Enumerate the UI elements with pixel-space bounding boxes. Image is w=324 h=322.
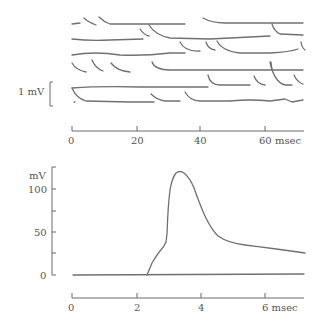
trace-row-2: [72, 24, 303, 40]
top-x-tick-60: 60 msec: [259, 135, 301, 146]
top-x-axis: 0 20 40 60 msec: [68, 126, 304, 146]
figure: 1 mV 0 20 40 60 msec mV 100 50 0: [0, 0, 324, 322]
baseline: [73, 274, 304, 275]
trace-row-4: [72, 60, 303, 72]
bottom-x-tick-0: 0: [68, 302, 74, 313]
bottom-y-axis: mV 100 50 0: [28, 167, 56, 281]
top-x-tick-20: 20: [131, 135, 144, 146]
scale-bar-label: 1 mV: [18, 86, 45, 97]
trace-row-6: [72, 88, 303, 102]
y-tick-0: 0: [40, 270, 46, 281]
y-unit-label: mV: [29, 170, 46, 181]
recording-traces: [72, 17, 305, 102]
scale-bar: 1 mV: [18, 82, 53, 106]
bottom-x-tick-2: 2: [134, 302, 140, 313]
bottom-x-axis: 0 2 4 6 msec: [68, 293, 304, 313]
bottom-x-tick-6: 6 msec: [262, 302, 298, 313]
action-potential-curve: [147, 172, 305, 276]
y-tick-50: 50: [34, 227, 47, 238]
y-tick-100: 100: [28, 184, 47, 195]
top-x-tick-40: 40: [194, 135, 207, 146]
trace-row-1: [72, 17, 303, 25]
trace-row-3: [72, 41, 305, 55]
trace-row-5: [72, 62, 303, 88]
top-x-tick-0: 0: [68, 135, 74, 146]
scale-bar-bracket: [50, 82, 53, 106]
bottom-x-tick-4: 4: [198, 302, 204, 313]
